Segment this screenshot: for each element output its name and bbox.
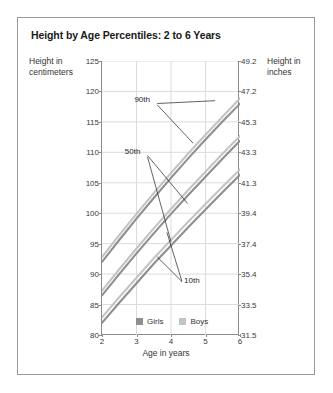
y-axis-left-tick-mark [99, 183, 102, 184]
x-axis-tick-mark [137, 334, 138, 337]
y-axis-right-title: Height in inches [267, 56, 317, 78]
x-axis-tick-label: 6 [238, 337, 242, 346]
x-axis-tick-label: 4 [169, 337, 173, 346]
y-axis-right-tick-label: 41.3 [241, 178, 257, 187]
y-axis-left-tick-label: 105 [86, 178, 99, 187]
y-axis-right-tick-label: 31.5 [241, 331, 257, 340]
y-axis-left-tick-mark [99, 274, 102, 275]
y-axis-right-tick-mark [238, 183, 241, 184]
y-axis-left-tick-mark [99, 91, 102, 92]
y-axis-left-tick-label: 80 [90, 331, 99, 340]
chart-legend: GirlsBoys [136, 317, 208, 326]
y-axis-right-tick-label: 47.2 [241, 87, 257, 96]
legend-swatch-icon [179, 318, 186, 325]
annotation-label-10th: 10th [184, 276, 200, 285]
y-axis-left-tick-mark [99, 122, 102, 123]
y-axis-right-tick-label: 49.2 [241, 57, 257, 66]
y-axis-left-tick-mark [99, 244, 102, 245]
x-axis-title: Age in years [18, 348, 314, 358]
x-axis-tick-mark [206, 334, 207, 337]
y-axis-right-tick-label: 39.4 [241, 209, 257, 218]
y-axis-right-tick-mark [238, 274, 241, 275]
plot-area: 8085909510010511011512012531.533.535.437… [101, 61, 239, 335]
y-axis-left-tick-label: 125 [86, 57, 99, 66]
y-axis-right-tick-label: 33.5 [241, 300, 257, 309]
leader-90th-a [157, 101, 215, 104]
y-axis-left-tick-mark [99, 61, 102, 62]
y-axis-right-tick-mark [238, 213, 241, 214]
legend-label: Boys [190, 317, 208, 326]
annotation-label-50th: 50th [125, 147, 141, 156]
x-axis-tick-mark [171, 334, 172, 337]
x-axis-tick-mark [102, 334, 103, 337]
legend-item-girls: Girls [136, 317, 163, 326]
legend-swatch-icon [136, 318, 143, 325]
y-axis-left-tick-label: 115 [86, 117, 99, 126]
y-axis-right-tick-mark [238, 91, 241, 92]
y-axis-right-tick-label: 37.4 [241, 239, 257, 248]
leader-90th-b [157, 105, 193, 143]
y-axis-right-tick-label: 43.3 [241, 148, 257, 157]
y-axis-left-tick-label: 90 [90, 270, 99, 279]
y-axis-left-tick-label: 85 [90, 300, 99, 309]
y-axis-left-tick-label: 110 [86, 148, 99, 157]
y-axis-left-tick-label: 95 [90, 239, 99, 248]
y-axis-left-tick-mark [99, 152, 102, 153]
y-axis-right-tick-mark [238, 152, 241, 153]
y-axis-left-tick-mark [99, 213, 102, 214]
y-axis-right-tick-mark [238, 61, 241, 62]
x-axis-tick-label: 3 [134, 337, 138, 346]
y-axis-left-tick-label: 100 [86, 209, 99, 218]
y-axis-right-tick-mark [238, 305, 241, 306]
annotation-label-90th: 90th [134, 95, 150, 104]
chart-canvas [102, 61, 240, 335]
page-title: Height by Age Percentiles: 2 to 6 Years [31, 29, 221, 41]
y-axis-left-tick-mark [99, 305, 102, 306]
y-axis-right-tick-label: 35.4 [241, 270, 257, 279]
figure-frame: Height by Age Percentiles: 2 to 6 Years … [17, 17, 315, 375]
y-axis-right-tick-mark [238, 244, 241, 245]
y-axis-right-tick-label: 45.3 [241, 117, 257, 126]
y-axis-left-tick-label: 120 [86, 87, 99, 96]
legend-item-boys: Boys [179, 317, 208, 326]
x-axis-tick-label: 5 [203, 337, 207, 346]
x-axis-tick-mark [240, 334, 241, 337]
y-axis-right-tick-mark [238, 122, 241, 123]
x-axis-tick-label: 2 [100, 337, 104, 346]
legend-label: Girls [147, 317, 163, 326]
